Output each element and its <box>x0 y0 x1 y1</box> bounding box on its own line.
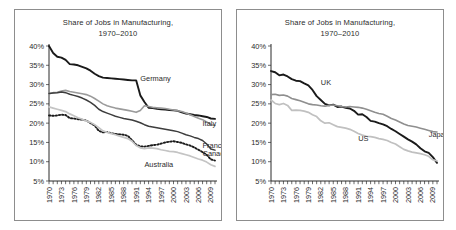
y-tick-label: 40% <box>29 42 44 51</box>
x-tick-label: 1991 <box>132 187 141 203</box>
chart-panel-left: Share of Jobs in Manufacturing, 1970–201… <box>14 9 222 221</box>
y-tick-label: 10% <box>251 157 266 166</box>
series-label-japan: Japan <box>429 130 443 139</box>
y-tick-label: 20% <box>251 119 266 128</box>
x-tick-label: 1976 <box>292 187 301 203</box>
x-tick-label: 1970 <box>45 187 54 203</box>
x-tick-label: 2000 <box>169 187 178 203</box>
y-tick-label: 15% <box>29 138 44 147</box>
series-line-uk <box>271 71 437 163</box>
x-tick-label: 2003 <box>404 187 413 203</box>
x-tick-label: 2000 <box>391 187 400 203</box>
x-tick-label: 1979 <box>304 187 313 203</box>
y-tick-label: 35% <box>251 61 266 70</box>
x-tick-label: 2006 <box>416 187 425 203</box>
x-tick-label: 1979 <box>82 187 91 203</box>
series-label-us: US <box>358 134 368 143</box>
series-label-australia: Australia <box>144 160 174 169</box>
series-line-japan <box>271 94 437 132</box>
x-tick-label: 1973 <box>57 187 66 203</box>
y-tick-label: 25% <box>29 99 44 108</box>
x-tick-label: 1988 <box>341 187 350 203</box>
x-tick-label: 2003 <box>182 187 191 203</box>
x-tick-label: 1994 <box>366 187 375 203</box>
series-label-uk: UK <box>321 78 331 87</box>
y-tick-label: 35% <box>29 61 44 70</box>
line-chart-left: 40%35%30%25%20%15%10%5%19701973197619791… <box>15 10 221 220</box>
y-tick-label: 10% <box>29 157 44 166</box>
x-tick-label: 1970 <box>267 187 276 203</box>
y-tick-label: 5% <box>33 177 44 186</box>
y-tick-label: 20% <box>29 119 44 128</box>
x-tick-label: 1997 <box>157 187 166 203</box>
series-line-canada <box>49 115 215 161</box>
y-tick-label: 25% <box>251 99 266 108</box>
x-tick-label: 2009 <box>428 187 437 203</box>
y-tick-label: 30% <box>251 80 266 89</box>
x-tick-label: 1985 <box>329 187 338 203</box>
y-tick-label: 5% <box>255 177 266 186</box>
x-tick-label: 1982 <box>316 187 325 203</box>
x-tick-label: 1973 <box>279 187 288 203</box>
y-tick-label: 30% <box>29 80 44 89</box>
series-label-italy: Italy <box>203 119 217 128</box>
x-tick-label: 2006 <box>194 187 203 203</box>
series-label-canada: Canada <box>203 149 221 158</box>
line-chart-right: 40%35%30%25%20%15%10%5%19701973197619791… <box>237 10 443 220</box>
chart-page: Share of Jobs in Manufacturing, 1970–201… <box>0 0 456 230</box>
x-tick-label: 1991 <box>354 187 363 203</box>
series-line-germany <box>49 46 215 119</box>
chart-panel-right: Share of Jobs in Manufacturing, 1970–201… <box>236 9 444 221</box>
x-tick-label: 1988 <box>119 187 128 203</box>
x-tick-label: 2009 <box>206 187 215 203</box>
x-tick-label: 1985 <box>107 187 116 203</box>
x-tick-label: 1994 <box>144 187 153 203</box>
series-line-us <box>271 100 437 161</box>
x-tick-label: 1982 <box>94 187 103 203</box>
series-label-germany: Germany <box>140 74 171 83</box>
y-tick-label: 40% <box>251 42 266 51</box>
x-tick-label: 1976 <box>70 187 79 203</box>
x-tick-label: 1997 <box>379 187 388 203</box>
y-tick-label: 15% <box>251 138 266 147</box>
